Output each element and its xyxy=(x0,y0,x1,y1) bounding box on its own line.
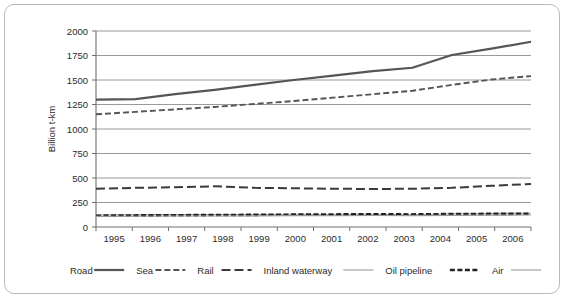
y-tick-label: 500 xyxy=(72,173,88,184)
y-tick-label: 1000 xyxy=(67,124,88,135)
x-tick-label: 1997 xyxy=(176,233,197,244)
y-tick-label: 2000 xyxy=(67,26,88,37)
y-tick-label: 1750 xyxy=(67,50,88,61)
x-tick-label: 2000 xyxy=(285,233,306,244)
y-tick-label: 1250 xyxy=(67,99,88,110)
x-tick-label: 2003 xyxy=(394,233,415,244)
chart-svg: 025050075010001250150017502000 199519961… xyxy=(0,0,566,300)
gridlines xyxy=(96,31,531,203)
series-line-road xyxy=(96,42,531,100)
legend-label-air: Air xyxy=(492,265,504,276)
y-tick-label: 750 xyxy=(72,148,88,159)
x-tick-label: 1998 xyxy=(212,233,233,244)
x-tick-label: 2005 xyxy=(466,233,487,244)
y-tick-label: 1500 xyxy=(67,75,88,86)
x-tick-label: 2004 xyxy=(430,233,451,244)
x-axis-ticks: 1995199619971998199920002001200220032004… xyxy=(96,227,531,244)
legend-label-oil-pipeline: Oil pipeline xyxy=(385,265,432,276)
line-chart: 025050075010001250150017502000 199519961… xyxy=(0,0,566,300)
x-tick-label: 2006 xyxy=(502,233,523,244)
x-tick-label: 2001 xyxy=(321,233,342,244)
y-tick-label: 0 xyxy=(83,222,88,233)
legend-label-rail: Rail xyxy=(197,265,213,276)
series-line-rail xyxy=(96,184,531,189)
x-tick-label: 1996 xyxy=(140,233,161,244)
y-axis-title: Billion t-km xyxy=(46,106,57,153)
chart-page: 025050075010001250150017502000 199519961… xyxy=(0,0,566,300)
legend-label-road: Road xyxy=(70,265,93,276)
x-tick-label: 1995 xyxy=(104,233,125,244)
x-tick-label: 1999 xyxy=(249,233,270,244)
chart-legend: RoadSeaRailInland waterwayOil pipelineAi… xyxy=(70,265,541,276)
y-axis-ticks: 025050075010001250150017502000 xyxy=(67,26,96,233)
y-tick-label: 250 xyxy=(72,197,88,208)
legend-label-sea: Sea xyxy=(136,265,154,276)
legend-label-inland-waterway: Inland waterway xyxy=(264,265,333,276)
x-tick-label: 2002 xyxy=(357,233,378,244)
